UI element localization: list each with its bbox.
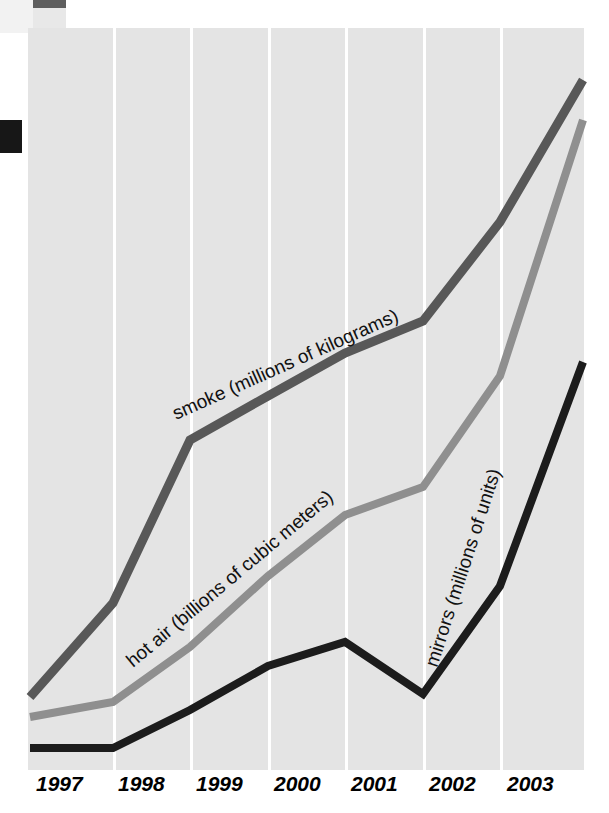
x-axis-tick-labels: 1997 1998 1999 2000 2001 2002 2003 [0,772,609,813]
x-tick-1997: 1997 [36,772,83,796]
x-tick-1998: 1998 [118,772,165,796]
chart-canvas: smoke (millions of kilograms) hot air (b… [0,0,609,813]
x-tick-2003: 2003 [507,772,554,796]
x-tick-2002: 2002 [429,772,476,796]
series-line-mirrors [30,362,583,748]
series-label-smoke: smoke (millions of kilograms) [169,305,401,424]
x-tick-1999: 1999 [196,772,243,796]
series-line-smoke [30,80,583,697]
series-lines: smoke (millions of kilograms) hot air (b… [0,0,609,813]
x-tick-2001: 2001 [351,772,398,796]
series-line-hot-air [30,120,583,717]
x-tick-2000: 2000 [274,772,321,796]
